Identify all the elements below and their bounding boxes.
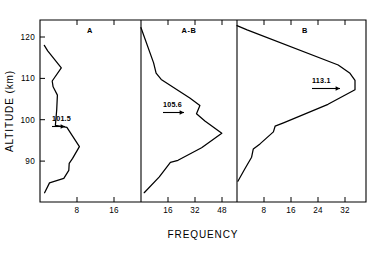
panel-b-xtick-8: 8 [262,206,267,215]
altitude-frequency-figure: 90 100 110 120 ALTITUDE (km) FREQUENCY A… [0,0,386,253]
panel-b-annotation-label: 113.1 [312,76,331,85]
x-axis-title: FREQUENCY [168,229,239,240]
panel-a-title: A [87,26,93,35]
panel-b-title: B [302,26,308,35]
panel-ab-annotation-label: 105.6 [163,100,182,109]
panel-ab: A-B 16 32 48 105.6 [141,20,227,215]
panel-b-xtick-24: 24 [313,206,323,215]
figure-container: 90 100 110 120 ALTITUDE (km) FREQUENCY A… [0,0,386,253]
panel-ab-xtick-32: 32 [190,206,200,215]
panel-ab-curve [141,28,222,193]
panel-a: A 8 16 101.5 [44,20,119,215]
y-tick-label-110: 110 [21,74,35,83]
y-axis-ticks [40,37,45,161]
y-tick-label-100: 100 [20,116,35,125]
panel-a-xtick-8: 8 [75,206,80,215]
panel-b: B 8 16 24 32 113.1 [237,20,355,215]
panel-a-xtick-16: 16 [109,206,119,215]
panel-ab-title: A-B [182,26,197,35]
panel-dividers [141,20,237,202]
y-tick-label-90: 90 [25,157,35,166]
panel-ab-annotation: 105.6 [163,100,184,115]
panel-b-xtick-16: 16 [286,206,296,215]
plot-frame [40,20,366,202]
panel-a-annotation: 101.5 [52,114,71,129]
y-axis-title: ALTITUDE (km) [4,70,15,152]
panel-ab-xtick-48: 48 [217,206,227,215]
panel-b-annotation: 113.1 [312,76,340,91]
y-axis-tick-labels: 90 100 110 120 [20,33,35,166]
panel-ab-xtick-16: 16 [163,206,173,215]
y-tick-label-120: 120 [20,33,35,42]
panel-a-annotation-label: 101.5 [52,114,71,123]
panel-b-curve [237,26,355,182]
panel-b-xtick-32: 32 [340,206,350,215]
